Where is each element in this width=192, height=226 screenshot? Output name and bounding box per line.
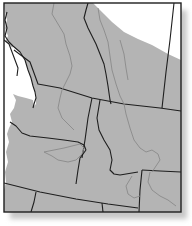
range-map [0,0,192,226]
map-container [0,0,192,226]
